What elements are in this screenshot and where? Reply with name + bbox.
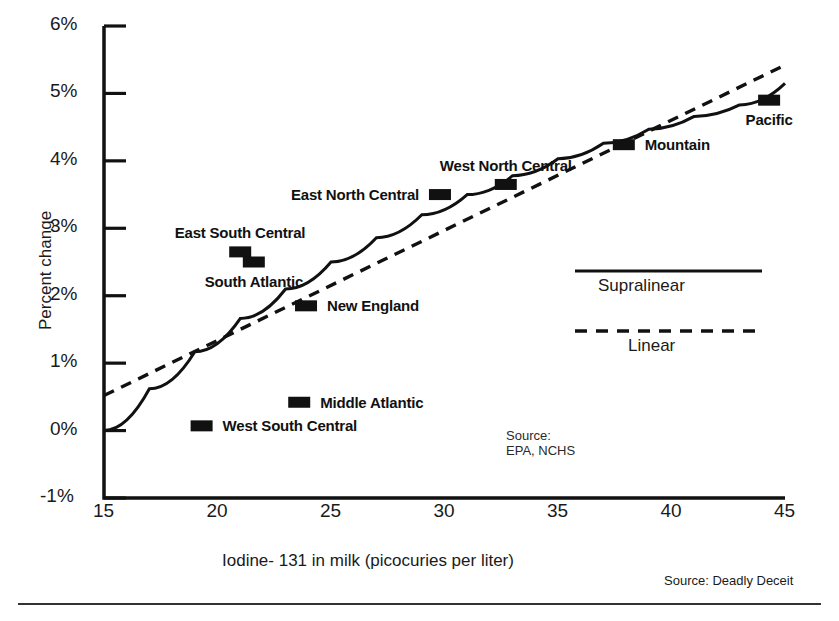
data-point-label: East North Central: [291, 186, 419, 203]
x-axis-tick-label: 15: [93, 500, 114, 522]
data-point-label: West South Central: [223, 417, 357, 434]
y-axis-tick-label: 1%: [50, 350, 77, 372]
legend-label-supralinear: Supralinear: [598, 276, 685, 296]
data-marker: [288, 397, 310, 408]
data-marker: [429, 189, 451, 200]
credit-note: Source: Deadly Deceit: [664, 573, 793, 588]
data-point-label: West North Central: [440, 157, 572, 174]
data-point-label: New England: [327, 297, 419, 314]
bottom-divider: [18, 603, 821, 605]
data-marker: [295, 300, 317, 311]
y-axis-tick-label: -1%: [40, 485, 74, 507]
source-note: Source: EPA, NCHS: [506, 428, 575, 458]
data-marker: [243, 257, 265, 268]
x-axis-tick-label: 30: [434, 500, 455, 522]
y-axis-tick-label: 6%: [50, 13, 77, 35]
chart-figure: 15202530354045 -1%0%1%2%3%4%5%6% West So…: [0, 0, 839, 621]
x-axis-tick-label: 25: [320, 500, 341, 522]
data-point-label: South Atlantic: [205, 273, 303, 290]
x-axis-tick-label: 35: [547, 500, 568, 522]
data-marker: [191, 420, 213, 431]
x-axis-tick-label: 20: [207, 500, 228, 522]
y-axis-tick-label: 4%: [50, 148, 77, 170]
x-axis-tick-label: 40: [661, 500, 682, 522]
y-axis-title: Percent change: [36, 211, 56, 330]
chart-canvas: [0, 0, 839, 621]
series-layer: [104, 65, 785, 431]
data-marker: [229, 246, 251, 257]
data-marker: [758, 95, 780, 106]
data-point-label: Pacific: [746, 111, 793, 128]
data-marker: [495, 179, 517, 190]
y-axis-tick-label: 5%: [50, 80, 77, 102]
y-axis-tick-label: 0%: [50, 418, 77, 440]
data-point-label: Middle Atlantic: [320, 394, 423, 411]
x-axis-title: Iodine- 131 in milk (picocuries per lite…: [222, 551, 514, 571]
x-axis-tick-label: 45: [774, 500, 795, 522]
data-point-label: East South Central: [175, 224, 306, 241]
data-point-label: Mountain: [645, 136, 710, 153]
legend-label-linear: Linear: [628, 336, 675, 356]
data-marker: [613, 139, 635, 150]
